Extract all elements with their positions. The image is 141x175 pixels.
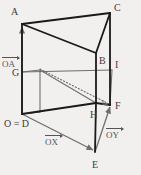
vertex-label-F: F: [115, 101, 121, 111]
vertex-label-C: C: [114, 3, 121, 13]
vertex-label-G: G: [12, 68, 19, 78]
vector-label-OY: OY: [106, 128, 119, 140]
edge-D-H: [22, 103, 96, 114]
edge-K-F-dotted: [40, 69, 109, 104]
vector-text-OY: OY: [106, 130, 119, 140]
vector-label-OA: OA: [2, 57, 15, 69]
vertex-label-H: H: [90, 110, 97, 120]
vector-bar-OA: [2, 57, 19, 58]
vector-label-OX: OX: [45, 135, 58, 147]
figure-canvas: [0, 0, 141, 175]
edge-A-C: [22, 13, 110, 24]
edge-C-B: [96, 13, 110, 53]
vertex-label-I: I: [115, 60, 118, 70]
edge-K-H: [40, 70, 96, 103]
vector-bar-OX: [45, 135, 62, 136]
vector-text-OX: OX: [45, 137, 58, 147]
edge-A-B: [22, 24, 96, 53]
vector-bar-OY: [106, 128, 123, 129]
vector-text-OA: OA: [2, 59, 15, 69]
vertex-label-B: B: [99, 56, 106, 66]
vertex-label-A: A: [11, 7, 18, 17]
hidden-edges-dotted: [40, 69, 109, 104]
vertex-label-E: E: [92, 160, 98, 170]
vertex-label-O-D: O = D: [4, 119, 29, 129]
geometry-figure: A C B I G F H O = D E OA OX OY: [0, 0, 141, 175]
